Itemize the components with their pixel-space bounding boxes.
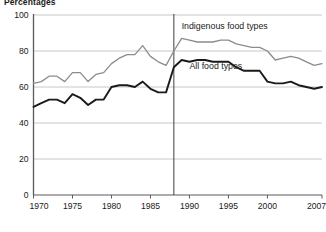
x-tick-labels-group: 19701975198019851990199520002007: [30, 201, 326, 211]
line-chart-plot: 020406080100 197019751980198519901995200…: [0, 0, 326, 232]
series-line-indigenous-food-types: [34, 38, 323, 83]
series-annotation: All food types: [189, 61, 242, 71]
series-annotations-group: Indigenous food typesAll food types: [182, 21, 269, 71]
y-tick-label: 100: [14, 10, 29, 20]
x-axis-line: [34, 195, 323, 199]
y-tick-label: 40: [19, 118, 29, 128]
y-tick-labels-group: 020406080100: [14, 10, 29, 200]
series-annotation: Indigenous food types: [182, 21, 269, 31]
series-line-all-food-types: [34, 60, 323, 107]
data-series-group: [34, 38, 323, 106]
x-tick-label: 1985: [141, 201, 160, 211]
x-tick-label: 1995: [219, 201, 238, 211]
y-tick-label: 0: [24, 190, 29, 200]
x-tick-label: 2000: [258, 201, 277, 211]
chart-figure: Percentages 020406080100 197019751980198…: [0, 0, 326, 232]
x-tick-label: 1990: [180, 201, 199, 211]
gridlines-group: [34, 15, 323, 159]
x-tick-label: 2007: [307, 201, 326, 211]
x-tick-label: 1970: [30, 201, 49, 211]
x-tick-label: 1980: [102, 201, 121, 211]
y-tick-label: 60: [19, 82, 29, 92]
x-tick-label: 1975: [63, 201, 82, 211]
y-tick-label: 20: [19, 154, 29, 164]
y-tick-label: 80: [19, 46, 29, 56]
